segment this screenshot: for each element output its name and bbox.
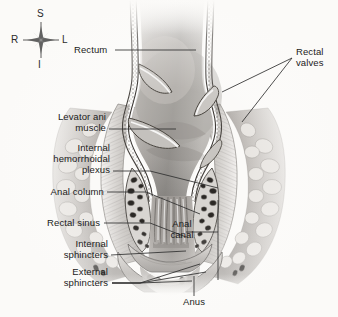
- label-internal-sphincters: Internal sphincters: [14, 239, 108, 261]
- label-rectal-valves: Rectal valves: [296, 47, 338, 69]
- label-internal-hemorrhoidal-plexus: Internal hemorrhoidal plexus: [8, 143, 110, 175]
- label-external-sphincters: External sphincters: [14, 267, 108, 289]
- compass-left-label: L: [62, 35, 68, 45]
- label-anal-canal: Anal canal: [152, 219, 212, 241]
- label-rectum: Rectum: [74, 45, 118, 56]
- compass-superior-label: S: [37, 9, 44, 19]
- anatomy-figure: S I R L Rectum Rectal valves Levator ani…: [0, 0, 338, 317]
- label-levator-ani-muscle: Levator ani muscle: [14, 112, 106, 134]
- compass-inferior-label: I: [38, 60, 41, 70]
- label-anus: Anus: [172, 297, 216, 308]
- compass-right-label: R: [11, 35, 18, 45]
- label-rectal-sinus: Rectal sinus: [12, 218, 100, 229]
- label-anal-column: Anal column: [14, 187, 104, 198]
